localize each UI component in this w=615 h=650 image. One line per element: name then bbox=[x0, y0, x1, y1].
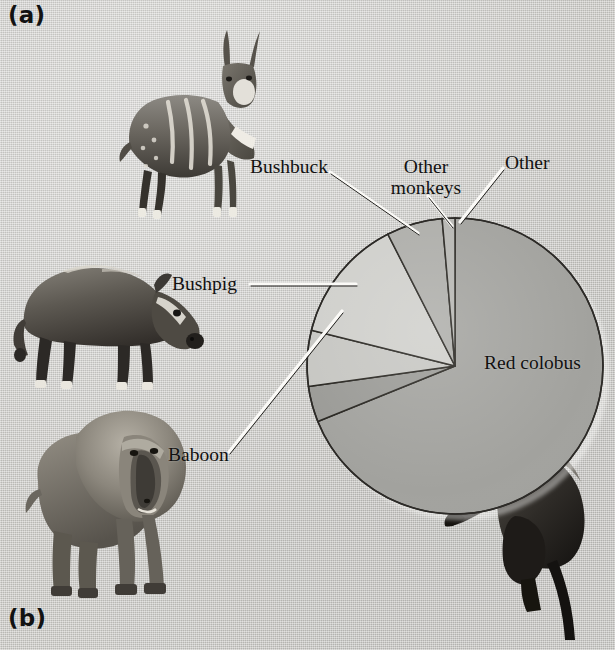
baboon-photo bbox=[18, 385, 218, 610]
slice-label-other: Other bbox=[505, 152, 549, 173]
slice-label-bushbuck: Bushbuck bbox=[250, 156, 328, 177]
slice-label-other-monkeys-line2: monkeys bbox=[391, 177, 461, 198]
slice-label-other-monkeys-line1: Other bbox=[404, 156, 448, 177]
slice-label-bushpig: Bushpig bbox=[172, 273, 237, 294]
slice-label-other-monkeys: Other monkeys bbox=[383, 156, 469, 198]
slice-label-red-colobus: Red colobus bbox=[484, 352, 581, 373]
slice-label-baboon: Baboon bbox=[168, 444, 229, 465]
panel-label-a: (a) bbox=[8, 2, 45, 28]
bushpig-photo bbox=[6, 245, 211, 395]
bushbuck-photo bbox=[96, 22, 286, 222]
figure-panel: (a) (b) bbox=[0, 0, 615, 650]
